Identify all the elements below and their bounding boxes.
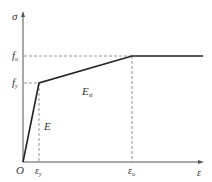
origin-label: O <box>16 164 24 176</box>
y-axis-label: σ <box>12 10 18 22</box>
x-axis-label: ε <box>197 167 201 178</box>
hardening-modulus-label: Est <box>81 85 93 98</box>
y-axis-arrow-icon <box>21 11 25 17</box>
elastic-modulus-label: E <box>43 120 51 132</box>
stress-strain-diagram: σ ε O fu fy εy εu E Est <box>0 0 212 182</box>
eu-label: εu <box>128 165 135 177</box>
x-axis-arrow-icon <box>198 160 204 164</box>
ey-label: εy <box>35 165 42 177</box>
fy-label: fy <box>12 76 18 89</box>
fu-label: fu <box>12 49 18 62</box>
stress-strain-curve <box>23 56 203 162</box>
